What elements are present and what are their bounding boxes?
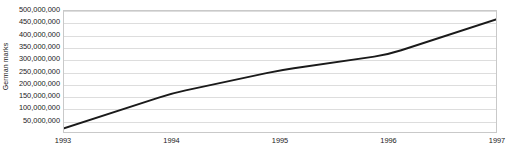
x-axis-tick-label: 1993 [33, 136, 93, 146]
data-line [64, 19, 496, 128]
series-line-german-marks [64, 11, 496, 132]
y-axis-tick-label: 450,000,000 [10, 18, 60, 26]
line-chart: German marks 50,000,000100,000,000150,00… [0, 0, 510, 157]
x-axis-tick-label: 1997 [467, 136, 510, 146]
plot-area [63, 10, 497, 133]
y-axis-tick-label: 300,000,000 [10, 55, 60, 63]
y-axis-tick-label: 350,000,000 [10, 43, 60, 51]
y-axis-tick-label: 150,000,000 [10, 92, 60, 100]
y-axis-tick-label: 100,000,000 [10, 104, 60, 112]
x-axis-tick-label: 1995 [250, 136, 310, 146]
y-axis-tick-labels: 50,000,000100,000,000150,000,000200,000,… [10, 0, 60, 140]
x-axis-tick-label: 1996 [359, 136, 419, 146]
y-axis-tick-label: 400,000,000 [10, 31, 60, 39]
x-axis-tick-label: 1994 [142, 136, 202, 146]
y-axis-tick-label: 50,000,000 [10, 117, 60, 125]
y-axis-tick-label: 500,000,000 [10, 6, 60, 14]
y-axis-tick-label: 250,000,000 [10, 68, 60, 76]
y-axis-tick-label: 200,000,000 [10, 80, 60, 88]
x-axis-tick-labels: 19931994199519961997 [0, 136, 510, 150]
